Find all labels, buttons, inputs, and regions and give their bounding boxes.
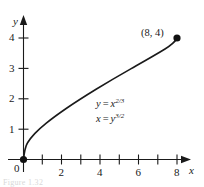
x-axis-label: x <box>189 165 194 176</box>
y-tick-label-3: 3 <box>9 63 15 74</box>
y-axis-arrowhead <box>20 15 27 25</box>
equation-y-of-x: y=x2/3 <box>96 99 124 110</box>
equation-1-operator: = <box>101 98 111 109</box>
x-tick-label-2: 2 <box>59 167 65 178</box>
data-point-label-8-4: (8, 4) <box>141 28 164 39</box>
y-tick-label-4: 4 <box>9 32 15 43</box>
x-tick-label-4: 4 <box>97 167 103 178</box>
y-tick-label-2: 2 <box>9 93 15 104</box>
equation-2-lhs: x <box>96 113 101 124</box>
plot-canvas <box>0 0 204 187</box>
y-tick-label-1: 1 <box>9 124 15 135</box>
figure-caption: Figure 1.32 <box>3 178 43 187</box>
figure-container: y x 0 1 2 3 4 2 4 6 8 (8, 4) y=x2/3 x=y3… <box>0 0 204 187</box>
data-point-origin-marker <box>20 156 27 163</box>
equation-1-lhs: y <box>96 98 101 109</box>
data-point-8-4-marker <box>173 34 180 41</box>
equation-2-operator: = <box>101 113 111 124</box>
equation-x-of-y: x=y3/2 <box>96 114 124 125</box>
x-tick-label-8: 8 <box>174 167 180 178</box>
x-axis-arrowhead <box>181 156 191 163</box>
x-tick-label-6: 6 <box>136 167 142 178</box>
origin-tick-label: 0 <box>14 163 20 174</box>
y-axis-label: y <box>13 16 18 27</box>
equation-2-exponent: 3/2 <box>115 112 124 120</box>
equation-1-exponent: 2/3 <box>115 97 124 105</box>
